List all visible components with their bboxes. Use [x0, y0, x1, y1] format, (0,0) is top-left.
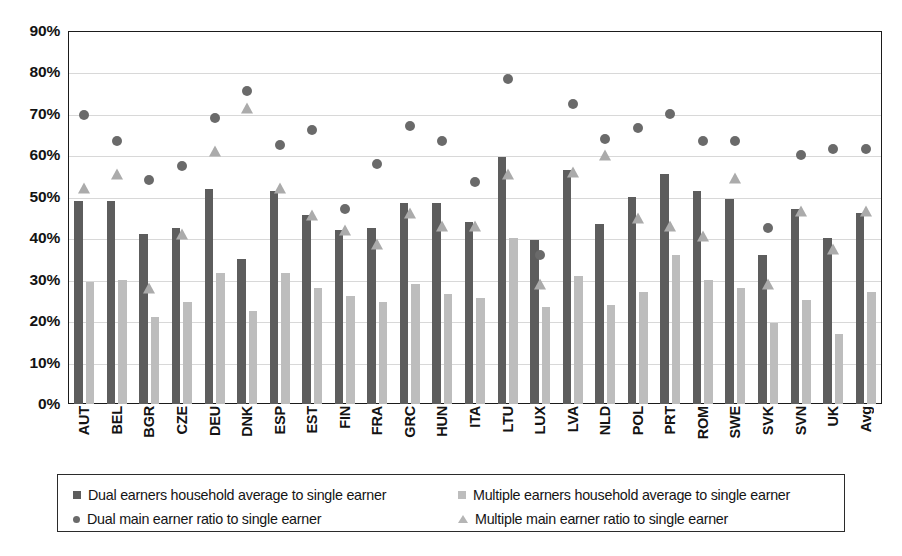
y-axis-tick-label: 10% [30, 354, 60, 372]
circle-dark-icon [73, 516, 80, 523]
x-axis-tick-label: POL [630, 406, 646, 435]
bar-multiple-earners [346, 296, 355, 404]
x-axis-tick-label: FRA [369, 406, 385, 435]
marker-dual-main-earner-ratio [763, 223, 773, 233]
category-group [328, 31, 361, 404]
category-group [719, 31, 752, 404]
x-axis-tick-label: BEL [109, 406, 125, 434]
bar-multiple-earners [281, 273, 290, 404]
legend-item-dual-earners-household[interactable]: Dual earners household average to single… [58, 487, 458, 503]
x-axis-tick-label: PRT [662, 406, 678, 434]
bar-multiple-earners [737, 288, 746, 404]
category-group [296, 31, 329, 404]
bar-dual-earners [660, 174, 669, 404]
x-axis-tick-label: Avg [858, 406, 874, 432]
category-group [459, 31, 492, 404]
bar-multiple-earners [118, 280, 127, 404]
bar-multiple-earners [476, 298, 485, 404]
bar-dual-earners [530, 240, 539, 404]
x-axis-tick-label: GRC [402, 406, 418, 438]
bar-dual-earners [465, 222, 474, 404]
marker-multiple-main-earner-ratio [241, 102, 253, 113]
category-group [166, 31, 199, 404]
y-axis-tick-label: 0% [38, 395, 60, 413]
bar-dual-earners [563, 170, 572, 404]
marker-multiple-main-earner-ratio [436, 220, 448, 231]
category-group [361, 31, 394, 404]
category-group [198, 31, 231, 404]
bar-dual-earners [856, 213, 865, 404]
x-axis-tick-label: SVK [760, 406, 776, 435]
marker-dual-main-earner-ratio [340, 204, 350, 214]
x-axis-tick-label: NLD [597, 406, 613, 435]
bar-dual-earners [400, 203, 409, 404]
marker-dual-main-earner-ratio [633, 123, 643, 133]
x-axis-tick-label: ESP [272, 406, 288, 434]
legend-item-dual-main-earner-ratio[interactable]: Dual main earner ratio to single earner [58, 511, 458, 527]
marker-multiple-main-earner-ratio [827, 243, 839, 254]
marker-dual-main-earner-ratio [112, 136, 122, 146]
x-axis-tick-label: UK [825, 406, 841, 427]
category-group [101, 31, 134, 404]
marker-dual-main-earner-ratio [144, 175, 154, 185]
marker-dual-main-earner-ratio [698, 136, 708, 146]
bar-dual-earners [74, 201, 83, 404]
category-group [263, 31, 296, 404]
bar-dual-earners [139, 234, 148, 404]
legend-row: Dual earners household average to single… [58, 483, 844, 507]
marker-dual-main-earner-ratio [177, 161, 187, 171]
chart-container: 0%10%20%30%40%50%60%70%80%90% AUTBELBGRC… [0, 0, 902, 556]
marker-dual-main-earner-ratio [79, 110, 89, 120]
category-group [622, 31, 655, 404]
bar-multiple-earners [86, 282, 95, 404]
x-axis-tick-label: ROM [695, 406, 711, 439]
marker-multiple-main-earner-ratio [469, 220, 481, 231]
bar-multiple-earners [704, 280, 713, 404]
bar-multiple-earners [770, 323, 779, 404]
marker-dual-main-earner-ratio [600, 134, 610, 144]
bar-dual-earners [823, 238, 832, 404]
category-group [491, 31, 524, 404]
bar-multiple-earners [802, 300, 811, 404]
category-group [133, 31, 166, 404]
category-group [394, 31, 427, 404]
legend-row: Dual main earner ratio to single earner … [58, 507, 844, 531]
x-axis-tick-label: FIN [337, 406, 353, 429]
y-axis-tick-label: 20% [30, 312, 60, 330]
marker-multiple-main-earner-ratio [306, 210, 318, 221]
marker-multiple-main-earner-ratio [78, 183, 90, 194]
marker-multiple-main-earner-ratio [534, 278, 546, 289]
bar-multiple-earners [574, 276, 583, 404]
marker-dual-main-earner-ratio [568, 99, 578, 109]
x-axis-tick-label: DEU [207, 406, 223, 436]
bar-multiple-earners [216, 273, 225, 404]
legend-item-multiple-earners-household[interactable]: Multiple earners household average to si… [458, 487, 844, 503]
marker-multiple-main-earner-ratio [274, 183, 286, 194]
marker-multiple-main-earner-ratio [795, 206, 807, 217]
marker-multiple-main-earner-ratio [599, 150, 611, 161]
bar-dual-earners [628, 197, 637, 404]
x-axis-tick-label: ITA [467, 406, 483, 428]
category-group [817, 31, 850, 404]
x-axis-tick-label: SVN [793, 406, 809, 435]
legend-item-multiple-main-earner-ratio[interactable]: Multiple main earner ratio to single ear… [458, 511, 844, 527]
marker-dual-main-earner-ratio [437, 136, 447, 146]
x-axis-tick-label: BGR [141, 406, 157, 438]
marker-dual-main-earner-ratio [275, 140, 285, 150]
y-axis-tick-label: 60% [30, 146, 60, 164]
category-group [849, 31, 882, 404]
marker-multiple-main-earner-ratio [632, 212, 644, 223]
bar-dual-earners [367, 228, 376, 404]
square-dark-icon [73, 491, 81, 499]
bar-multiple-earners [672, 255, 681, 404]
bar-dual-earners [172, 228, 181, 404]
x-axis: AUTBELBGRCZEDEUDNKESPESTFINFRAGRCHUNITAL… [68, 406, 882, 468]
marker-multiple-main-earner-ratio [209, 146, 221, 157]
marker-multiple-main-earner-ratio [111, 168, 123, 179]
bar-dual-earners [237, 259, 246, 404]
marker-multiple-main-earner-ratio [860, 206, 872, 217]
category-group [556, 31, 589, 404]
bar-multiple-earners [183, 302, 192, 404]
bar-dual-earners [302, 215, 311, 404]
marker-multiple-main-earner-ratio [664, 220, 676, 231]
